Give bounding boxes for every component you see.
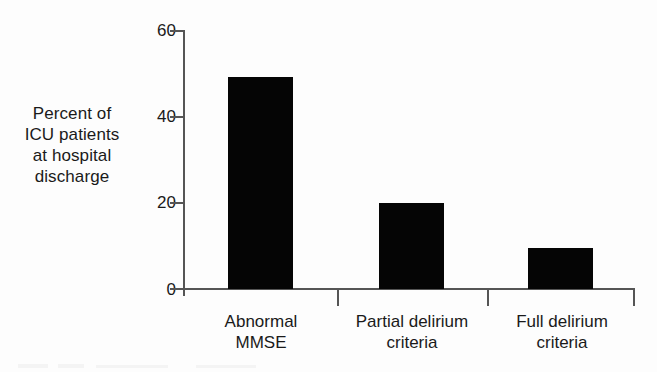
y-tick-mark-60 [170,30,184,32]
x-category-label-partial-delirium-criteria-line-1: Partial delirium [341,311,483,332]
x-category-label-full-delirium-criteria-line-1: Full delirium [493,311,631,332]
scan-artifact-3 [96,365,168,368]
x-category-label-abnormal-mmse-line-2: MMSE [195,332,327,353]
y-axis-title-line-3: at hospital [8,145,136,166]
x-category-label-abnormal-mmse-line-1: Abnormal [195,311,327,332]
scan-artifact-2 [58,364,84,368]
scan-artifact-4 [196,365,256,368]
y-axis-title: Percent of ICU patients at hospital disc… [8,103,136,187]
x-category-label-full-delirium-criteria: Full delirium criteria [493,311,631,353]
y-tick-mark-0 [170,288,184,290]
y-axis-title-line-4: discharge [8,166,136,187]
x-axis-end-tick-right [633,290,635,306]
x-category-label-partial-delirium-criteria-line-2: criteria [341,332,483,353]
scan-artifact-1 [18,364,48,368]
x-axis-separator-tick-1 [337,290,339,306]
y-axis-title-line-2: ICU patients [8,124,136,145]
y-axis-title-line-1: Percent of [8,103,136,124]
x-category-label-full-delirium-criteria-line-2: criteria [493,332,631,353]
y-tick-mark-40 [170,116,184,118]
bar-full-delirium-criteria [528,248,593,289]
x-category-label-partial-delirium-criteria: Partial delirium criteria [341,311,483,353]
bar-chart-figure: Percent of ICU patients at hospital disc… [0,0,657,372]
x-axis-separator-tick-2 [487,290,489,306]
x-category-label-abnormal-mmse: Abnormal MMSE [195,311,327,353]
y-axis-line [183,30,185,296]
y-tick-mark-20 [170,202,184,204]
bar-abnormal-mmse [228,77,293,289]
bar-partial-delirium-criteria [379,203,444,289]
